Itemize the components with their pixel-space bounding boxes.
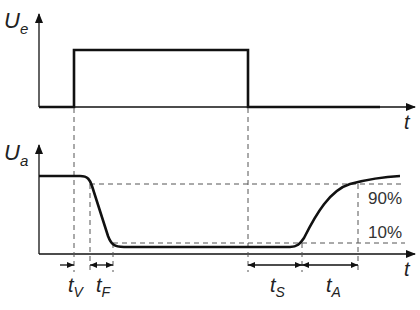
ta-label: tA — [326, 274, 341, 300]
ue-time-label: t — [404, 111, 411, 133]
input-plot: Ue t — [4, 8, 415, 133]
tv-label: tV — [68, 274, 85, 300]
tf-label: tF — [96, 274, 112, 300]
ua-axis-label: Ua — [4, 140, 28, 169]
input-pulse — [39, 50, 380, 107]
ua-time-label: t — [404, 258, 411, 280]
output-response — [39, 176, 400, 247]
level-10-label: 10% — [368, 223, 402, 242]
ue-axis-label: Ue — [4, 8, 28, 37]
level-90-label: 90% — [368, 189, 402, 208]
ts-label: tS — [270, 274, 286, 300]
timing-diagram: Ue t Ua t 90% 10% tV tF tS tA — [0, 0, 420, 310]
output-plot: Ua t — [4, 140, 415, 280]
